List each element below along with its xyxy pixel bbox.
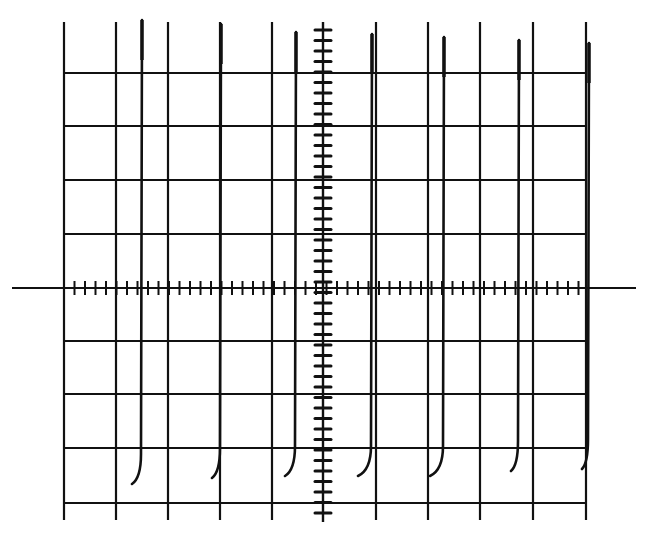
waveform-spike [132, 20, 142, 484]
waveform-spike [358, 34, 372, 476]
waveform-trace [132, 20, 589, 484]
waveform-spike [212, 24, 221, 478]
waveform-spike [285, 32, 296, 476]
oscilloscope-graticule [0, 0, 646, 536]
waveform-spike [430, 37, 444, 476]
waveform-spike [511, 40, 519, 471]
